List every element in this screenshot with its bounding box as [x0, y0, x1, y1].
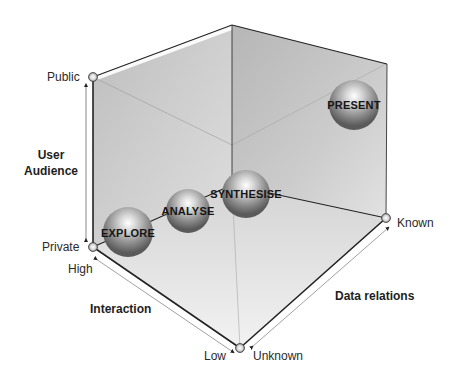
private-node: [89, 243, 98, 252]
high-label: High: [68, 262, 93, 276]
public-node: [89, 73, 98, 82]
low-unknown-node: [236, 344, 245, 353]
private-label: Private: [42, 240, 79, 254]
user-audience-title: User Audience: [20, 147, 82, 179]
svg-text:EXPLORE: EXPLORE: [101, 227, 155, 239]
unknown-label: Unknown: [253, 349, 303, 363]
public-label: Public: [47, 70, 80, 84]
svg-text:ANALYSE: ANALYSE: [162, 205, 215, 217]
interaction-title: Interaction: [90, 302, 151, 316]
user-audience-title-line2: Audience: [20, 163, 82, 179]
svg-text:SYNTHESISE: SYNTHESISE: [210, 188, 282, 200]
known-node: [382, 214, 391, 223]
data-relations-title: Data relations: [335, 289, 414, 303]
user-audience-title-line1: User: [20, 147, 82, 163]
known-label: Known: [397, 216, 434, 230]
cube-diagram: PRESENT SYNTHESISE ANALYSE EXPLORE: [0, 0, 456, 378]
svg-text:PRESENT: PRESENT: [327, 99, 380, 111]
low-label: Low: [204, 349, 226, 363]
